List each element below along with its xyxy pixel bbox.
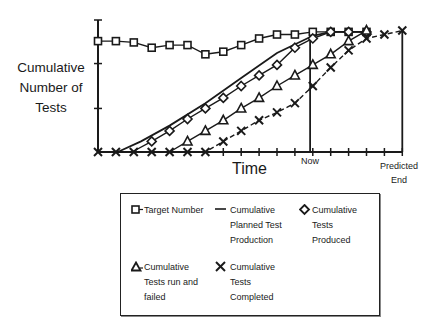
- square-marker-icon: [202, 51, 209, 58]
- solid-line-icon: [215, 204, 227, 216]
- square-marker-icon: [148, 44, 155, 51]
- triangle-marker-icon: [237, 103, 246, 112]
- square-marker-icon: [112, 38, 119, 45]
- triangle-marker-icon: [273, 81, 282, 90]
- series-cumulative-tests-run-and-failed: [170, 26, 371, 152]
- legend-label: Target Number: [144, 203, 222, 218]
- legend-label: Cumulative Planned Test Production: [230, 203, 308, 248]
- square-marker-icon: [131, 204, 143, 216]
- diamond-marker-icon: [237, 82, 246, 91]
- now-marker-label: Now: [301, 156, 319, 166]
- square-marker-icon: [220, 48, 227, 55]
- triangle-marker-icon: [201, 126, 210, 135]
- legend-label: Cumulative Tests Completed: [230, 260, 308, 305]
- square-marker-icon: [130, 39, 137, 46]
- square-marker-icon: [274, 31, 281, 38]
- square-marker-icon: [256, 35, 263, 42]
- square-marker-icon: [291, 31, 298, 38]
- predicted-end-label: Predicted End: [374, 159, 424, 187]
- triangle-marker-icon: [344, 36, 353, 45]
- diamond-marker-icon: [147, 137, 156, 146]
- chart-axes: [94, 20, 402, 156]
- x-marker-icon: [215, 261, 227, 273]
- chart-legend: Target Number Cumulative Planned Test Pr…: [120, 193, 380, 316]
- triangle-marker-icon: [326, 49, 335, 58]
- square-marker-icon: [95, 38, 102, 45]
- y-axis-label-line: Tests: [8, 98, 94, 118]
- legend-label: Cumulative Tests Produced: [312, 203, 390, 248]
- chart-series: [94, 26, 406, 156]
- square-marker-icon: [184, 42, 191, 49]
- diamond-marker-icon: [299, 204, 311, 216]
- triangle-marker-icon: [255, 93, 264, 102]
- x-axis-label: Time: [232, 160, 267, 178]
- square-marker-icon: [166, 42, 173, 49]
- triangle-marker-icon: [362, 26, 371, 35]
- triangle-marker-icon: [290, 70, 299, 79]
- triangle-marker-icon: [183, 136, 192, 145]
- y-axis-label-line: Cumulative: [8, 58, 94, 78]
- y-axis-label: Cumulative Number of Tests: [8, 58, 94, 118]
- series-line: [98, 31, 402, 152]
- series-line: [170, 31, 367, 152]
- series-cumulative-tests-completed: [94, 27, 406, 156]
- legend-label: Cumulative Tests run and failed: [144, 260, 222, 305]
- predicted-end-label-line: Predicted: [374, 159, 424, 173]
- diamond-marker-icon: [219, 93, 228, 102]
- y-axis-label-line: Number of: [8, 78, 94, 98]
- predicted-end-label-line: End: [374, 173, 424, 187]
- square-marker-icon: [238, 42, 245, 49]
- triangle-marker-icon: [219, 115, 228, 124]
- triangle-marker-icon: [131, 261, 143, 273]
- series-line: [98, 32, 367, 54]
- diamond-marker-icon: [255, 71, 264, 80]
